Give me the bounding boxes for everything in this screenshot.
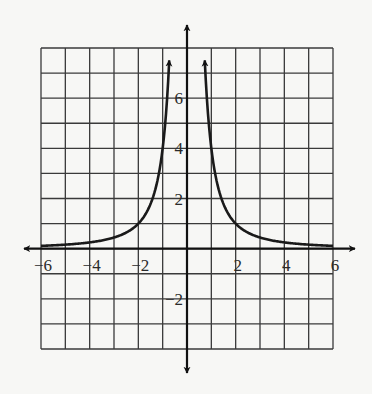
curve-left-branch — [41, 60, 169, 245]
function-graph: −6−4−2246−2246 — [0, 0, 372, 394]
x-tick-label: 2 — [233, 256, 242, 275]
x-tick-label: −4 — [83, 256, 102, 275]
y-tick-label: 2 — [175, 190, 184, 209]
y-tick-label: 6 — [175, 89, 184, 108]
y-tick-label: −2 — [165, 290, 183, 309]
curve-right-branch — [205, 60, 333, 245]
x-tick-label: −2 — [131, 256, 149, 275]
x-tick-label: 6 — [331, 256, 340, 275]
x-tick-label: −6 — [34, 256, 52, 275]
x-tick-label: 4 — [282, 256, 291, 275]
y-tick-label: 4 — [175, 139, 184, 158]
